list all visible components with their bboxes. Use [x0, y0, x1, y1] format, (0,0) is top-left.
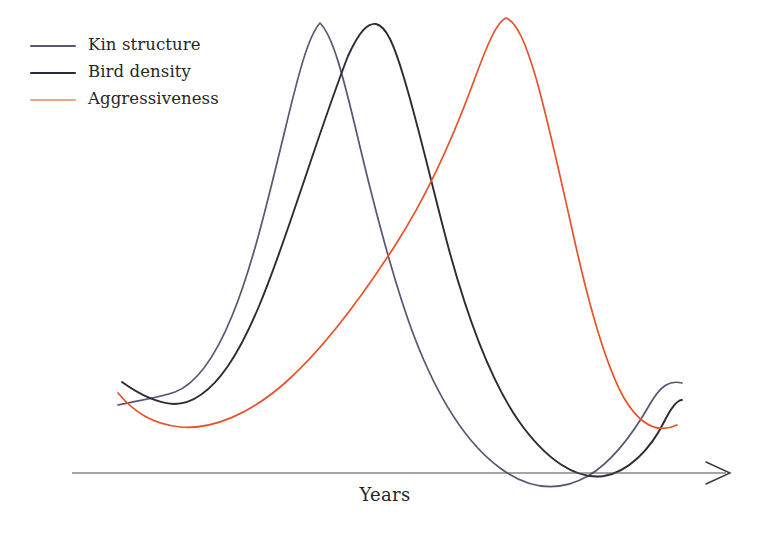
- legend-item-bird-density[interactable]: Bird density: [30, 59, 330, 86]
- legend-label-bird-density: Bird density: [88, 64, 191, 81]
- line-swatch-bird-density: [30, 72, 76, 74]
- x-axis-label: Years: [0, 484, 770, 505]
- legend-label-kin-structure: Kin structure: [88, 37, 201, 54]
- chart-legend: Kin structure Bird density Aggressivenes…: [30, 32, 330, 113]
- legend-item-kin-structure[interactable]: Kin structure: [30, 32, 330, 59]
- line-swatch-kin-structure: [30, 45, 76, 47]
- line-swatch-aggressiveness: [30, 99, 76, 101]
- figure-canvas: Kin structure Bird density Aggressivenes…: [0, 0, 770, 535]
- legend-label-aggressiveness: Aggressiveness: [88, 91, 219, 108]
- legend-item-aggressiveness[interactable]: Aggressiveness: [30, 86, 330, 113]
